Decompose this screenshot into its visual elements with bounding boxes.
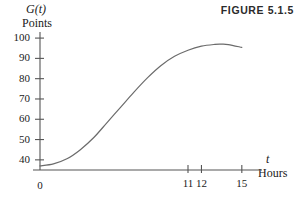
plot-area	[0, 0, 302, 204]
axis-lines	[33, 32, 262, 170]
data-series-curve	[40, 44, 242, 166]
figure-container: FIGURE 5.1.5 G(t) Points t Hours 4050607…	[0, 0, 302, 204]
x-axis-ticks	[188, 165, 242, 173]
